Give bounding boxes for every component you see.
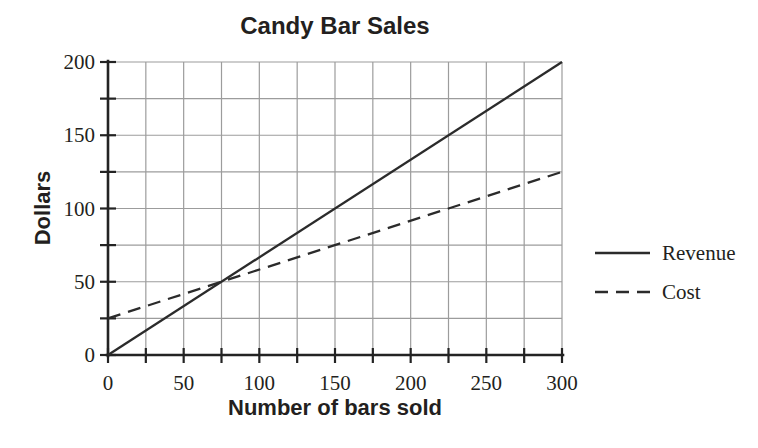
x-axis-title: Number of bars sold — [228, 395, 442, 420]
x-tick-label: 300 — [546, 371, 578, 395]
legend-item-cost: Cost — [595, 280, 701, 304]
legend-label-cost: Cost — [662, 280, 701, 304]
y-tick-label: 150 — [64, 123, 96, 147]
x-tick-label: 0 — [103, 371, 114, 395]
x-tick-label: 200 — [395, 371, 427, 395]
y-tick-label: 100 — [64, 197, 96, 221]
x-tick-label: 250 — [471, 371, 503, 395]
candy-bar-sales-figure: 050100150200250300050100150200 RevenueCo… — [0, 0, 758, 448]
legend-item-revenue: Revenue — [595, 241, 735, 265]
legend: RevenueCost — [595, 241, 735, 304]
y-tick-label: 50 — [74, 270, 95, 294]
x-tick-label: 50 — [173, 371, 194, 395]
y-tick-label: 200 — [64, 50, 96, 74]
chart-title: Candy Bar Sales — [240, 12, 429, 39]
legend-label-revenue: Revenue — [662, 241, 735, 265]
x-tick-label: 100 — [244, 371, 276, 395]
candy-bar-sales-chart: 050100150200250300050100150200 RevenueCo… — [0, 0, 758, 448]
x-tick-label: 150 — [319, 371, 351, 395]
y-axis-title: Dollars — [30, 171, 55, 246]
y-tick-label: 0 — [85, 343, 96, 367]
